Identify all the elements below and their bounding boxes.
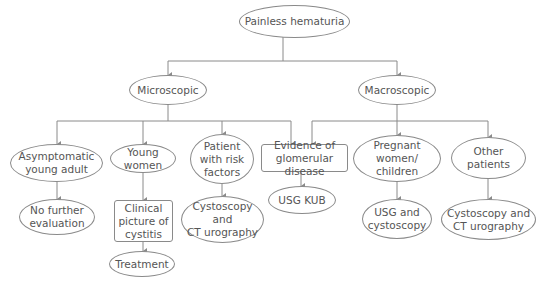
node-usg-kub: USG KUB — [268, 186, 336, 214]
node-other-patients: Other patients — [451, 137, 526, 179]
node-evidence-glomerular-disease: Evidence of glomerular disease — [261, 144, 348, 172]
node-macroscopic: Macroscopic — [358, 75, 436, 105]
node-painless-hematuria: Painless hematuria — [239, 5, 350, 38]
node-treatment: Treatment — [109, 251, 175, 277]
node-patient-with-risk-factors: Patient with risk factors — [190, 134, 254, 184]
node-cystoscopy-ct-urography-1: Cystoscopy and CT urography — [181, 196, 264, 243]
flowchart: Painless hematuria Microscopic Macroscop… — [0, 0, 540, 283]
node-no-further-evaluation: No further evaluation — [19, 199, 95, 235]
node-clinical-picture-of-cystitis: Clinical picture of cystitis — [114, 200, 173, 242]
node-asymptomatic-young-adult: Asymptomatic young adult — [10, 144, 103, 182]
node-young-women: Young women — [110, 144, 176, 173]
node-cystoscopy-ct-urography-2: Cystoscopy and CT urography — [441, 199, 536, 240]
node-pregnant-women-children: Pregnant women/ children — [353, 135, 441, 182]
node-microscopic: Microscopic — [129, 75, 207, 105]
node-usg-and-cystoscopy: USG and cystoscopy — [362, 199, 432, 239]
